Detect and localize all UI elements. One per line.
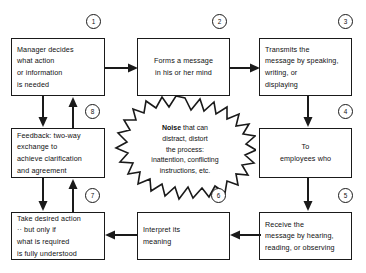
process-box-4[interactable]: To employees who [259,128,352,178]
step-number-3: 3 [338,14,353,29]
noise-rest-text: that can distract, distort the process: … [151,124,218,174]
arrow-box3-to-box4 [302,96,314,128]
step-number-2-label: 2 [218,18,222,25]
arrow-box5-to-box6 [229,229,261,241]
step-number-2: 2 [212,14,227,29]
process-box-2-text: Forms a message in his or her mind [154,55,213,78]
process-box-6-text: Interpret its meaning [143,224,180,247]
process-box-8-text: Feedback: two-way exchange to achieve cl… [17,130,82,177]
process-box-3[interactable]: Transmits the message by speaking, writi… [259,38,352,96]
process-box-5[interactable]: Receive the message by hearing, reading,… [259,212,352,260]
arrow-box1-to-box2 [105,62,139,74]
arrow-box4-to-box5 [302,178,314,212]
process-box-4-text: To employees who [280,141,331,164]
step-number-3-label: 3 [344,18,348,25]
arrow-box2-to-box3 [229,62,261,74]
step-number-8: 8 [85,104,100,119]
process-box-7[interactable]: Take desired action ·· but only if what … [11,212,105,260]
arrow-box8-to-box7 [37,178,49,212]
noise-starburst: Noise that can distract, distort the pro… [114,96,256,204]
step-number-6: 6 [211,188,226,203]
process-box-3-text: Transmits the message by speaking, writi… [265,44,339,91]
process-box-7-text: Take desired action ·· but only if what … [17,213,81,260]
arrow-box7-to-box8 [67,178,79,212]
step-number-4-label: 4 [344,108,348,115]
process-box-6[interactable]: Interpret its meaning [137,212,230,260]
arrow-box8-to-box1 [67,96,79,128]
step-number-7-label: 7 [91,192,95,199]
process-box-8[interactable]: Feedback: two-way exchange to achieve cl… [11,128,105,178]
step-number-5: 5 [338,188,353,203]
step-number-8-label: 8 [91,108,95,115]
process-box-1-text: Manager decides what action or informati… [17,44,74,91]
step-number-6-label: 6 [217,192,221,199]
process-box-2[interactable]: Forms a message in his or her mind [137,38,230,96]
arrow-box1-to-box8 [37,96,49,128]
step-number-4: 4 [338,104,353,119]
step-number-1: 1 [86,14,101,29]
process-box-1[interactable]: Manager decides what action or informati… [11,38,105,96]
noise-lead-word: Noise [162,124,181,131]
flowchart-canvas: Manager decides what action or informati… [0,0,366,273]
arrow-box6-to-box7 [104,229,138,241]
process-box-5-text: Receive the message by hearing, reading,… [265,219,335,254]
step-number-7: 7 [85,188,100,203]
noise-label: Noise that can distract, distort the pro… [114,96,256,204]
step-number-1-label: 1 [92,18,96,25]
step-number-5-label: 5 [344,192,348,199]
